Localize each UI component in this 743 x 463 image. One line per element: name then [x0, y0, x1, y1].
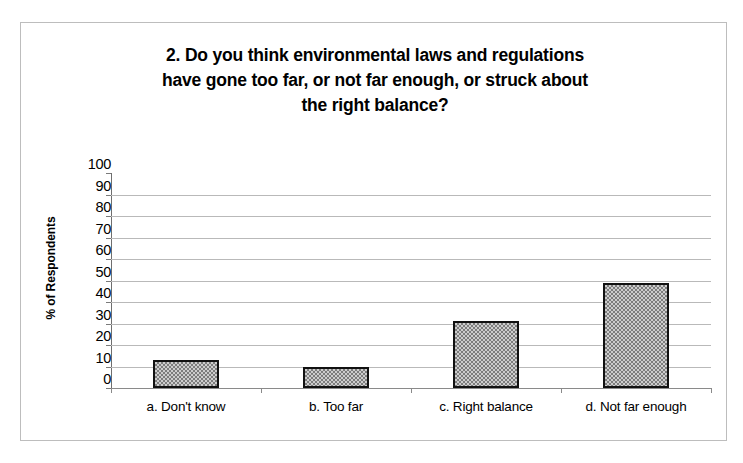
y-axis-tick-label: 100: [77, 157, 111, 171]
y-axis-tick-label: 0: [77, 372, 111, 386]
y-axis-tick-label: 40: [77, 286, 111, 300]
x-axis-category-label: a. Don't know: [111, 397, 261, 421]
y-axis-tick-mark: [106, 367, 111, 368]
y-axis-tick-label: 10: [77, 351, 111, 365]
plot-region: % of Respondents 1009080706050403020100 …: [21, 23, 728, 442]
y-axis-tick-mark: [106, 302, 111, 303]
y-axis-tick-label: 50: [77, 265, 111, 279]
y-axis-tick-mark: [106, 281, 111, 282]
gridline: [111, 281, 711, 282]
x-axis-tick-mark: [561, 388, 562, 393]
x-axis-tick-mark: [261, 388, 262, 393]
y-axis-tick-label: 80: [77, 200, 111, 214]
y-axis-tick-mark: [106, 195, 111, 196]
y-axis-tick-mark: [106, 216, 111, 217]
bar: [453, 321, 519, 388]
bar: [303, 367, 369, 389]
x-axis-category-labels: a. Don't knowb. Too farc. Right balanced…: [111, 397, 711, 421]
y-axis-tick-mark: [106, 238, 111, 239]
gridline: [111, 216, 711, 217]
y-axis-tick-mark: [106, 345, 111, 346]
y-axis-tick-mark: [106, 259, 111, 260]
x-axis-category-label: b. Too far: [261, 397, 411, 421]
bar: [603, 283, 669, 388]
gridline: [111, 195, 711, 196]
x-axis-category-label: d. Not far enough: [561, 397, 711, 421]
y-axis-tick-labels: 1009080706050403020100: [77, 164, 111, 380]
x-axis-tick-mark: [411, 388, 412, 393]
y-axis-tick-mark: [106, 324, 111, 325]
gridline: [111, 238, 711, 239]
y-axis-title: % of Respondents: [44, 198, 58, 338]
y-axis-tick-label: 90: [77, 179, 111, 193]
y-axis-tick-label: 70: [77, 222, 111, 236]
x-axis-tick-mark: [711, 388, 712, 393]
chart-figure-frame: 2. Do you think environmental laws and r…: [20, 22, 727, 441]
bar: [153, 360, 219, 388]
x-axis-category-label: c. Right balance: [411, 397, 561, 421]
plot-area: [111, 173, 711, 388]
gridline: [111, 259, 711, 260]
y-axis-tick-label: 60: [77, 243, 111, 257]
x-axis-tick-mark: [111, 388, 112, 393]
y-axis-tick-mark: [106, 173, 111, 174]
y-axis-tick-label: 30: [77, 308, 111, 322]
y-axis-tick-label: 20: [77, 329, 111, 343]
